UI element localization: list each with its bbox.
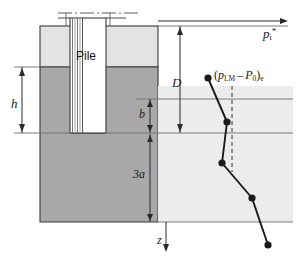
right-shaded-region <box>158 86 293 222</box>
pressure-axis-superscript: * <box>272 26 277 36</box>
diagram-canvas <box>0 0 298 265</box>
annotation-p-subscript: LM <box>224 74 235 83</box>
pile-label: Pile <box>76 50 96 62</box>
z-axis-arrowhead <box>163 244 169 252</box>
dimension-label-h: h <box>11 97 18 110</box>
data-point-marker <box>204 74 211 81</box>
data-point-marker <box>218 159 225 166</box>
data-point-marker <box>248 194 255 201</box>
pressure-axis-arrowhead <box>280 18 288 24</box>
upper-soil-left <box>40 26 71 67</box>
pile-soil-pressure-diagram: h D b 3a z Pile pi* (pLM–P0)e <box>0 0 298 265</box>
dimension-label-D: D <box>172 76 181 89</box>
D-arrowhead-top <box>177 27 183 35</box>
upper-soil-right <box>105 26 158 67</box>
annotation-close-subscript: e <box>260 74 263 83</box>
h-arrowhead-bottom <box>19 124 25 132</box>
annotation-minus-sign: – <box>235 68 245 82</box>
dimension-label-b: b <box>139 108 145 120</box>
annotation-P-base: P <box>245 68 252 82</box>
data-point-marker <box>223 118 230 125</box>
depth-axis-label-z: z <box>157 234 162 246</box>
curve-annotation-label: (pLM–P0)e <box>214 69 264 83</box>
h-arrowhead-top <box>19 68 25 76</box>
dimension-label-three-a: 3a <box>133 168 145 180</box>
pressure-axis-label: pi* <box>263 27 276 42</box>
data-point-marker <box>264 241 271 248</box>
